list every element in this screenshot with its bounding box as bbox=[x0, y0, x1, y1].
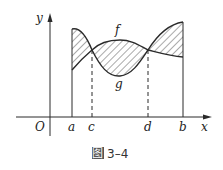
y-axis-arrow-icon bbox=[48, 13, 53, 22]
caption-prefix: 图 bbox=[92, 147, 103, 160]
tick-label-a: a bbox=[68, 120, 75, 134]
origin-label: O bbox=[35, 120, 45, 134]
y-axis-label: y bbox=[35, 11, 43, 25]
tick-label-b: b bbox=[179, 120, 187, 134]
caption-number: 3–4 bbox=[107, 147, 128, 161]
curve-f-label: f bbox=[114, 23, 122, 37]
figure-caption: 图 3–4 bbox=[92, 147, 128, 161]
tick-label-d: d bbox=[144, 120, 152, 134]
shaded-region bbox=[72, 22, 183, 76]
x-axis-label: x bbox=[201, 120, 208, 134]
curve-g-label: g bbox=[115, 77, 123, 91]
tick-label-c: c bbox=[88, 120, 95, 134]
x-axis-arrow-icon bbox=[203, 115, 212, 120]
area-between-curves-figure: y x O a c d b f g 图 3–4 bbox=[0, 0, 223, 170]
